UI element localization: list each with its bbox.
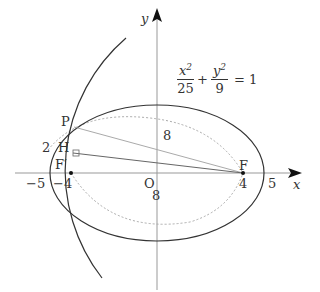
x-axis-label: x: [293, 178, 300, 191]
point-H-label: H: [58, 141, 69, 154]
tick-neg4: −4: [53, 177, 72, 190]
focus-left-dot: [69, 171, 73, 175]
length-8-top-label: 8: [163, 129, 171, 142]
tick-pos5: 5: [268, 177, 276, 190]
segment-PF: [74, 127, 243, 173]
length-8-bottom-label: 8: [152, 189, 160, 202]
ellipse-equation: x225 + y29 = 1: [174, 62, 257, 96]
tick-neg5: −5: [26, 177, 45, 190]
y-axis-label: y: [141, 12, 148, 25]
point-F-label: F: [239, 159, 248, 172]
length-2-label: 2: [42, 141, 50, 154]
point-F-prime-label: F′: [55, 158, 67, 171]
segment-HF: [73, 153, 243, 173]
point-P-label: P: [61, 115, 70, 128]
tick-pos4: 4: [239, 177, 247, 190]
